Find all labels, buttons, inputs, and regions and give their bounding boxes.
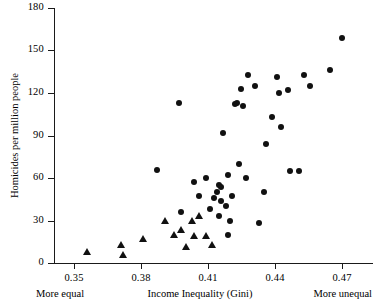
data-point-circle (223, 203, 229, 209)
x-tick (342, 263, 343, 269)
data-point-triangle (195, 212, 203, 219)
annotation-more-unequal: More unequal (313, 288, 372, 299)
y-tick (48, 221, 54, 222)
data-point-circle (261, 189, 267, 195)
data-point-circle (243, 175, 249, 181)
x-tick-label: 0.41 (188, 272, 228, 283)
y-axis-line (54, 8, 55, 264)
data-point-triangle (182, 243, 190, 250)
data-point-circle (176, 100, 182, 106)
x-tick (141, 263, 142, 269)
scatter-chart-figure: 0306090120150180 0.350.380.410.440.47 Ho… (0, 0, 373, 306)
data-point-circle (218, 184, 224, 190)
y-tick (48, 178, 54, 179)
data-point-circle (236, 161, 242, 167)
data-point-circle (214, 189, 220, 195)
data-point-circle (227, 218, 233, 224)
y-tick-label: 0 (0, 257, 44, 268)
data-point-triangle (208, 241, 216, 248)
y-tick-label: 180 (0, 2, 44, 13)
data-point-circle (339, 35, 345, 41)
data-point-triangle (119, 251, 127, 258)
y-tick-label: 60 (0, 172, 44, 183)
data-point-triangle (190, 232, 198, 239)
x-tick (74, 263, 75, 269)
data-point-circle (225, 232, 231, 238)
data-point-triangle (177, 226, 185, 233)
y-tick-label: 120 (0, 87, 44, 98)
annotation-more-equal: More equal (36, 288, 84, 299)
data-point-circle (252, 83, 258, 89)
x-tick-label: 0.47 (322, 272, 362, 283)
data-point-triangle (117, 241, 125, 248)
y-tick (48, 50, 54, 51)
data-point-triangle (139, 235, 147, 242)
x-axis-line (54, 263, 373, 264)
data-point-circle (245, 72, 251, 78)
data-point-circle (238, 86, 244, 92)
x-tick-label: 0.35 (54, 272, 94, 283)
data-point-circle (225, 172, 231, 178)
data-point-triangle (161, 217, 169, 224)
x-tick (208, 263, 209, 269)
x-tick (275, 263, 276, 269)
y-tick (48, 263, 54, 264)
x-tick-label: 0.44 (255, 272, 295, 283)
y-tick-label: 30 (0, 215, 44, 226)
y-tick (48, 8, 54, 9)
data-point-circle (234, 100, 240, 106)
data-point-triangle (202, 232, 210, 239)
plot-area (54, 8, 346, 263)
data-point-circle (154, 167, 160, 173)
data-point-circle (203, 175, 209, 181)
data-point-triangle (83, 248, 91, 255)
y-axis-label: Homicides per million people (9, 36, 20, 236)
data-point-circle (301, 72, 307, 78)
data-point-circle (263, 141, 269, 147)
x-tick-label: 0.38 (121, 272, 161, 283)
y-tick (48, 136, 54, 137)
y-tick-label: 150 (0, 44, 44, 55)
y-tick (48, 93, 54, 94)
y-tick-label: 90 (0, 130, 44, 141)
x-axis-label: Income Inequality (Gini) (54, 288, 346, 299)
data-point-circle (178, 209, 184, 215)
